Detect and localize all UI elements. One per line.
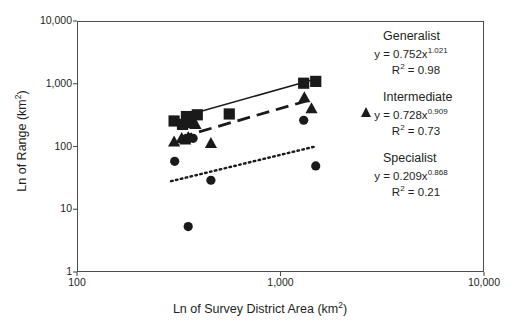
legend-r2-specialist: R2 = 0.21 <box>352 186 484 198</box>
r2-label-generalist: R <box>392 64 400 76</box>
legend-entry-intermediate: Intermediate y = 0.728x0.909 R2 = 0.73 <box>352 89 484 137</box>
legend-label-specialist: Specialist <box>383 151 437 165</box>
legend-r2-intermediate: R2 = 0.73 <box>352 125 484 137</box>
triangle-marker-icon <box>360 90 374 104</box>
equation-exponent-intermediate: 0.909 <box>428 107 448 116</box>
chart-legend: Generalist y = 0.752x1.021 R2 = 0.98 Int… <box>352 28 484 211</box>
r2-superscript-intermediate: 2 <box>400 123 404 132</box>
y-axis-title: Ln of Range (km2) <box>15 61 29 221</box>
y-tick-label: 100 <box>54 141 72 152</box>
square-marker-icon <box>360 29 374 43</box>
legend-equation-generalist: y = 0.752x1.021 <box>352 48 484 60</box>
legend-label-generalist: Generalist <box>383 29 440 43</box>
circle-marker-icon <box>360 151 374 165</box>
y-tick-label: 10,000 <box>40 15 72 26</box>
legend-entry-generalist: Generalist y = 0.752x1.021 R2 = 0.98 <box>352 28 484 76</box>
y-axis-title-close: ) <box>15 90 29 94</box>
x-axis-title-close: ) <box>343 302 347 316</box>
y-tick-label: 1,000 <box>46 78 72 89</box>
x-tick-label: 10,000 <box>468 277 500 288</box>
y-axis-title-superscript: 2 <box>13 95 23 100</box>
r2-label-specialist: R <box>392 186 400 198</box>
chart-figure: 1101001,00010,000 1001,00010,000 Ln of S… <box>0 0 520 336</box>
equation-exponent-generalist: 1.021 <box>428 46 448 55</box>
x-axis-ticks: 1001,00010,000 <box>0 277 520 291</box>
legend-label-intermediate: Intermediate <box>383 90 452 104</box>
legend-equation-specialist: y = 0.209x0.868 <box>352 170 484 182</box>
r2-value-specialist: = 0.21 <box>408 186 440 198</box>
legend-equation-intermediate: y = 0.728x0.909 <box>352 109 484 121</box>
legend-head-intermediate: Intermediate <box>352 89 484 105</box>
r2-value-generalist: = 0.98 <box>408 64 440 76</box>
legend-head-specialist: Specialist <box>352 150 484 166</box>
y-axis-title-text: Ln of Range (km <box>15 99 29 191</box>
equation-exponent-specialist: 0.868 <box>428 168 448 177</box>
r2-superscript-generalist: 2 <box>400 62 404 71</box>
legend-head-generalist: Generalist <box>352 28 484 44</box>
legend-entry-specialist: Specialist y = 0.209x0.868 R2 = 0.21 <box>352 150 484 198</box>
x-axis-title-text: Ln of Survey District Area (km <box>173 302 338 316</box>
equation-base-specialist: y = 0.209x <box>374 170 427 182</box>
x-tick-label: 100 <box>68 277 86 288</box>
equation-base-generalist: y = 0.752x <box>374 48 427 60</box>
equation-base-intermediate: y = 0.728x <box>374 109 427 121</box>
x-tick-label: 1,000 <box>267 277 293 288</box>
r2-superscript-specialist: 2 <box>400 184 404 193</box>
r2-label-intermediate: R <box>392 125 400 137</box>
y-tick-label: 10 <box>60 203 72 214</box>
x-axis-title: Ln of Survey District Area (km2) <box>0 302 520 316</box>
legend-r2-generalist: R2 = 0.98 <box>352 64 484 76</box>
r2-value-intermediate: = 0.73 <box>408 125 440 137</box>
